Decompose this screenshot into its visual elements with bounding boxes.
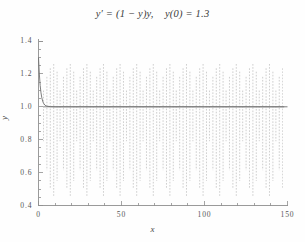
y-tick-label: 0.4	[2, 201, 33, 210]
y-tick-label: 0.8	[2, 135, 33, 144]
y-axis-label: y	[0, 116, 9, 120]
x-tick-label: 150	[272, 210, 304, 219]
numerical-solution-oscillation	[43, 64, 282, 197]
y-tick-label: 1.2	[2, 69, 33, 78]
x-tick-label: 50	[106, 210, 138, 219]
x-tick-label: 0	[23, 210, 55, 219]
y-tick-label: 1.4	[2, 36, 33, 45]
y-tick-label: 0.6	[2, 168, 33, 177]
x-tick-label: 100	[189, 210, 221, 219]
axes	[39, 39, 288, 206]
x-axis-label: x	[0, 224, 305, 234]
plot-area	[0, 0, 305, 242]
y-tick-label: 1.0	[2, 102, 33, 111]
figure: y′ = (1 − y)y, y(0) = 1.3 0.40.60.81.01.…	[0, 0, 305, 242]
data-curves	[39, 57, 288, 197]
